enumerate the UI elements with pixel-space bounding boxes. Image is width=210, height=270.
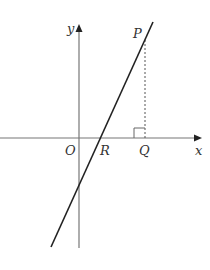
point-q-label: Q [139, 143, 150, 158]
x-axis-label: x [195, 143, 203, 158]
point-p-label: P [132, 26, 142, 41]
y-axis-arrow-icon [76, 24, 83, 32]
coordinate-diagram: y x O R Q P [0, 0, 210, 270]
x-axis-arrow-icon [194, 135, 202, 142]
point-r-label: R [99, 143, 110, 158]
origin-label: O [65, 143, 76, 158]
y-axis-label: y [66, 21, 75, 36]
straight-line [51, 22, 153, 247]
right-angle-marker [134, 128, 145, 138]
